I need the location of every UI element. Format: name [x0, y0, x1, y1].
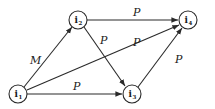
node-i3: i 3 — [123, 85, 141, 103]
node-i2: i 2 — [69, 11, 87, 29]
node-i1-sub: 1 — [19, 94, 23, 100]
edge-label-i2-i3: P — [99, 34, 108, 47]
node-i4-sub: 4 — [189, 20, 193, 26]
edge-label-i1-i2: M — [29, 54, 42, 67]
edge-label-i1-i3: P — [72, 80, 81, 93]
edge-label-i2-i4: P — [132, 6, 141, 19]
edge-label-i1-i4: P — [132, 36, 141, 49]
node-i4: i 4 — [179, 11, 197, 29]
graph-canvas: M P P P P P i 1 i 2 i 3 i 4 — [0, 0, 215, 109]
graph-svg: M P P P P P i 1 i 2 i 3 i 4 — [0, 0, 215, 109]
edge-label-i3-i4: P — [174, 53, 183, 66]
node-i2-sub: 2 — [79, 20, 83, 26]
node-i3-sub: 3 — [133, 94, 137, 100]
node-i1: i 1 — [9, 85, 27, 103]
